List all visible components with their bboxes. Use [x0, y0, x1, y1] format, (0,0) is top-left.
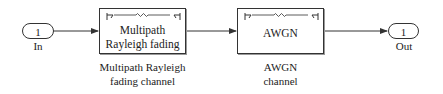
rayleigh-block-title-line2: Rayleigh fading	[100, 38, 185, 51]
awgn-block[interactable]: AWGN	[237, 8, 324, 54]
rayleigh-caption-line1: Multipath Rayleigh	[86, 60, 199, 74]
awgn-block-caption: AWGN channel	[240, 60, 321, 88]
channel-antenna-icon	[244, 12, 319, 22]
signal-lines	[0, 0, 443, 94]
channel-antenna-icon	[106, 12, 181, 22]
output-port-label: Out	[384, 40, 424, 52]
rayleigh-fading-block[interactable]: Multipath Rayleigh fading	[99, 8, 186, 54]
rayleigh-block-title-line1: Multipath	[100, 24, 185, 37]
output-port[interactable]: 1	[388, 23, 419, 39]
input-port-label: In	[18, 40, 58, 52]
output-port-number: 1	[401, 26, 407, 38]
input-port[interactable]: 1	[22, 23, 54, 39]
rayleigh-caption-line2: fading channel	[86, 74, 199, 88]
awgn-caption-line1: AWGN	[240, 60, 321, 74]
awgn-caption-line2: channel	[240, 74, 321, 88]
simulink-diagram: 1 In Multipath Rayleigh fading Multipath…	[0, 0, 443, 94]
rayleigh-block-caption: Multipath Rayleigh fading channel	[86, 60, 199, 88]
awgn-block-title: AWGN	[238, 27, 323, 40]
input-port-number: 1	[35, 26, 41, 38]
